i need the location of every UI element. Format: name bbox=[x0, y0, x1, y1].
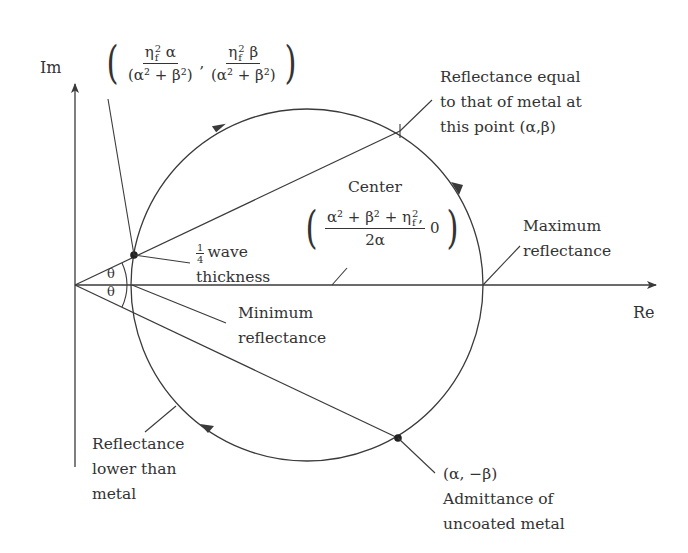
label-lower-than-metal: Reflectance lower than metal bbox=[92, 432, 184, 507]
leader-center bbox=[332, 268, 347, 285]
leader-maximum bbox=[483, 246, 520, 285]
re-axis-label: Re bbox=[633, 303, 655, 322]
paren-open: ( bbox=[107, 41, 119, 85]
label-maximum-reflectance: Maximum reflectance bbox=[523, 214, 611, 264]
line-origin-to-uncoated bbox=[75, 285, 398, 438]
theta-arc-lower bbox=[122, 285, 127, 307]
leader-lower-than-metal bbox=[145, 406, 176, 432]
circle-arrow-top-icon bbox=[212, 124, 226, 132]
center-formula: ( α² + β² + η2f, 2α 0 ) bbox=[303, 206, 461, 250]
leader-quarter-wave bbox=[134, 255, 190, 263]
paren-close: ) bbox=[285, 41, 297, 85]
theta-lower-label: θ bbox=[107, 285, 115, 299]
leader-top-formula bbox=[108, 99, 134, 255]
leader-minimum bbox=[132, 285, 226, 323]
label-minimum-reflectance: Minimum reflectance bbox=[238, 301, 326, 351]
theta-upper-label: θ bbox=[107, 267, 115, 281]
top-formula: ( η2f α (α² + β²) , η2f β (α² + β²) ) bbox=[104, 41, 300, 85]
top-frac-imag: η2f β (α² + β²) bbox=[209, 42, 278, 85]
theta-arc-upper bbox=[122, 263, 127, 285]
top-frac-real: η2f α (α² + β²) bbox=[126, 42, 195, 85]
label-uncoated-metal: (α, −β) Admittance of uncoated metal bbox=[443, 462, 565, 537]
center-title: Center bbox=[348, 178, 402, 197]
label-quarter-wave: 14wave thickness bbox=[196, 240, 270, 290]
label-reflectance-equal: Reflectance equal to that of metal at th… bbox=[440, 65, 582, 140]
leader-uncoated bbox=[398, 438, 435, 473]
im-axis-label: Im bbox=[40, 58, 62, 77]
circle-arrow-bottom-icon bbox=[200, 424, 214, 433]
leader-metal-point bbox=[400, 100, 432, 131]
